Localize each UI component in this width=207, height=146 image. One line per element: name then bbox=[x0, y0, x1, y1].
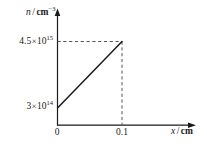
y-axis-label-unit-exponent: −3 bbox=[49, 5, 56, 12]
carrier-concentration-chart: n/cm−3 4.5×1015 3×1014 0 0.1 x/cm bbox=[0, 0, 207, 146]
y-axis-arrowhead bbox=[55, 9, 61, 17]
y-tick-upper-mantissa: 4.5 bbox=[19, 36, 31, 46]
y-tick-upper-exponent: 15 bbox=[47, 34, 54, 41]
x-axis-label-unit: cm bbox=[181, 126, 193, 136]
x-tick-label-0.1: 0.1 bbox=[110, 128, 134, 138]
y-tick-label-upper: 4.5×1015 bbox=[0, 35, 53, 47]
y-tick-upper-base: 10 bbox=[37, 36, 47, 46]
x-tick-label-origin: 0 bbox=[49, 128, 65, 138]
y-axis-label: n/cm−3 bbox=[26, 6, 55, 18]
plot-area bbox=[0, 0, 207, 146]
y-tick-lower-exponent: 14 bbox=[47, 99, 54, 106]
y-tick-lower-base: 10 bbox=[37, 101, 47, 111]
y-axis-label-unit: cm bbox=[36, 7, 48, 17]
data-series-line bbox=[58, 42, 122, 108]
y-tick-label-lower: 3×1014 bbox=[0, 100, 53, 112]
x-axis-label: x/cm bbox=[171, 127, 193, 137]
